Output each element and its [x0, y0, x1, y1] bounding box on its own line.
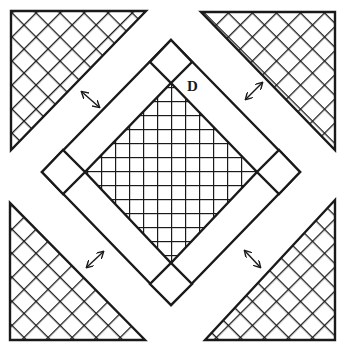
double-arrow-icon-bottom-right: [245, 251, 260, 267]
double-arrow-icon-top-right: [246, 83, 262, 99]
quilt-diagram: D: [0, 0, 354, 343]
diagram-canvas: [0, 0, 354, 343]
piece-label-d: D: [187, 79, 198, 94]
double-arrow-icon-top-left: [82, 92, 99, 107]
double-arrow-icon-bottom-left: [87, 252, 103, 267]
